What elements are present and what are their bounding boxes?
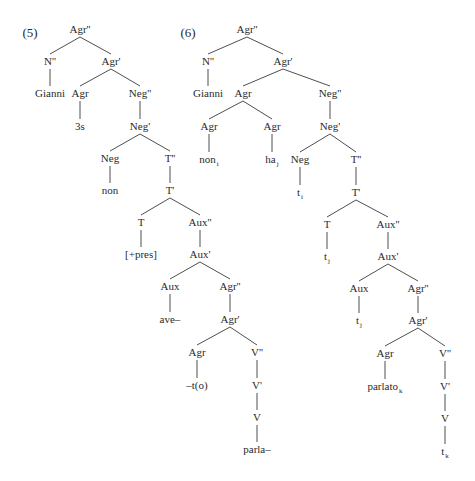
tree-branch	[111, 69, 140, 86]
tree-leaf: haj	[265, 153, 278, 168]
tree-branch	[200, 262, 230, 279]
tree-node: Agr	[263, 120, 280, 132]
tree-node: T''	[351, 153, 362, 165]
tree-branch	[243, 101, 272, 119]
example-label-6: (6)	[180, 25, 195, 40]
tree-node: Aux''	[377, 218, 400, 230]
tree-branch	[359, 264, 388, 281]
tree-leaf: Gianni	[35, 87, 65, 99]
tree-node: Agr''	[69, 23, 90, 35]
tree-node: T	[138, 216, 145, 228]
tree-node: Neg'	[320, 120, 340, 132]
tree-node: Agr''	[407, 282, 428, 294]
tree-branch	[197, 327, 230, 345]
tree-node: T'	[352, 186, 361, 198]
tree-node: T'	[166, 184, 175, 196]
tree-node: Aux'	[190, 248, 211, 260]
tree-node: T''	[165, 152, 176, 164]
tree-node: Agr'	[220, 313, 239, 325]
tree-node: V''	[251, 346, 263, 358]
tree-branch	[50, 37, 80, 54]
tree-node: V'	[252, 379, 262, 391]
tree-leaf: noni	[199, 153, 219, 168]
tree-node: Aux	[350, 282, 369, 294]
tree-leaf: Gianni	[193, 87, 223, 99]
tree-node: N''	[202, 55, 214, 67]
tree-nodes: Agr''N''GianniAgr'Agr3sNeg''Neg'NegnonT'…	[35, 23, 451, 460]
tree-leaf: ave–	[160, 313, 181, 325]
tree-branch	[247, 37, 283, 54]
tree-leaf: non	[102, 184, 119, 196]
tree-branch	[327, 200, 356, 217]
tree-leaf: –t(o)	[185, 379, 208, 392]
index-subscript: i	[301, 193, 303, 201]
tree-node: Agr	[234, 87, 251, 99]
tree-node: V'	[440, 380, 450, 392]
tree-node: Aux	[161, 280, 180, 292]
tree-node: Neg	[101, 152, 120, 164]
tree-node: V	[253, 411, 261, 423]
tree-node: Agr	[200, 120, 217, 132]
tree-node: Agr	[71, 87, 88, 99]
tree-node: N''	[44, 55, 56, 67]
tree-branch	[388, 264, 418, 281]
tree-branch	[141, 198, 170, 215]
tree-leaf: 3s	[75, 120, 85, 132]
tree-branch	[208, 37, 247, 54]
index-subscript: j	[327, 257, 330, 265]
tree-node: Neg''	[319, 87, 341, 99]
tree-leaf: [+pres]	[125, 248, 157, 260]
tree-branch	[170, 198, 200, 215]
tree-node: Neg	[291, 153, 310, 165]
tree-branch	[385, 328, 418, 346]
tree-node: V''	[439, 347, 451, 359]
tree-node: Neg'	[130, 120, 150, 132]
tree-branch	[80, 69, 111, 86]
tree-branch	[110, 134, 140, 151]
tree-node: Aux'	[378, 250, 399, 262]
tree-branch	[230, 327, 257, 345]
tree-node: Agr	[188, 346, 205, 358]
example-label-5: (5)	[22, 25, 37, 40]
tree-node: Aux''	[189, 216, 212, 228]
tree-branch	[356, 200, 388, 217]
tree-branch	[80, 37, 111, 54]
tree-leaf: tj	[356, 314, 362, 329]
tree-leaf: parlatok	[367, 380, 403, 395]
tree-node: Agr''	[236, 23, 257, 35]
tree-node: Neg''	[129, 87, 151, 99]
index-subscript: j	[276, 160, 279, 168]
tree-node: V	[441, 412, 449, 424]
tree-branch	[243, 69, 283, 86]
tree-branch	[283, 69, 330, 86]
index-subscript: j	[359, 321, 362, 329]
tree-node: Agr'	[101, 55, 120, 67]
tree-branch	[209, 101, 243, 119]
tree-leaf: parla–	[243, 443, 271, 455]
tree-branch	[170, 262, 200, 279]
tree-node: Agr'	[408, 314, 427, 326]
tree-branch	[300, 134, 330, 152]
tree-node: Agr	[376, 347, 393, 359]
syntax-tree-figure: Agr''N''GianniAgr'Agr3sNeg''Neg'NegnonT'…	[0, 0, 475, 481]
tree-branch	[140, 134, 170, 151]
index-subscript: k	[399, 387, 403, 395]
tree-leaf: ti	[297, 186, 303, 201]
tree-leaf: tj	[324, 250, 330, 265]
tree-node: T	[324, 218, 331, 230]
tree-node: Agr''	[219, 280, 240, 292]
tree-branch	[330, 134, 356, 152]
tree-leaf: tk	[441, 445, 449, 460]
tree-node: Agr'	[273, 55, 292, 67]
index-subscript: k	[445, 452, 449, 460]
tree-branch	[418, 328, 445, 346]
index-subscript: i	[217, 160, 219, 168]
